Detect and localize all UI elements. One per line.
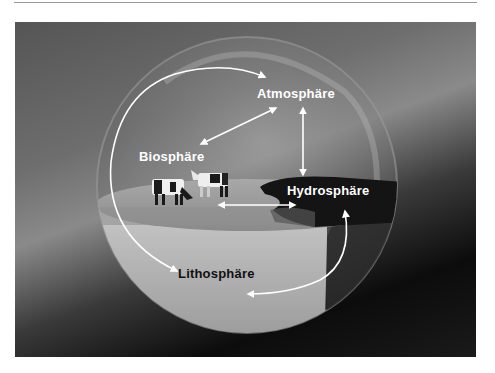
earth-spheres-diagram: Atmosphäre Biosphäre Hydrosphäre Lithosp… (15, 22, 476, 357)
label-biosphere: Biosphäre (139, 149, 204, 164)
label-lithosphere: Lithosphäre (178, 266, 255, 281)
label-atmosphere: Atmosphäre (257, 86, 335, 101)
sphere-illustration (15, 22, 476, 357)
top-divider (14, 2, 477, 3)
label-hydrosphere: Hydrosphäre (287, 183, 369, 198)
